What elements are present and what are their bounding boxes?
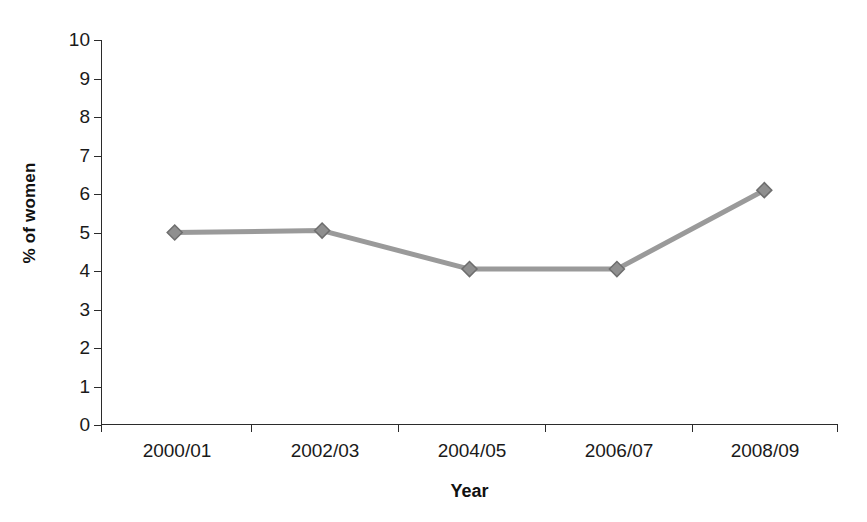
x-tick-label: 2008/09 [731,440,800,462]
plot-area [101,40,838,425]
x-axis-tick [398,425,399,432]
y-axis-tick [94,348,101,349]
series-polyline [175,190,765,269]
y-axis-tick [94,271,101,272]
y-tick-label: 4 [79,260,90,282]
data-point-marker [315,223,330,238]
y-tick-label: 9 [79,68,90,90]
y-axis-tick [94,425,101,426]
data-point-marker [462,262,477,277]
y-axis-tick-labels: 10 9 8 7 6 5 4 3 2 1 0 [46,0,90,522]
y-tick-label: 7 [79,145,90,167]
y-tick-label: 0 [79,414,90,436]
y-axis-title-label: % of women [20,162,40,263]
x-tick-label: 2002/03 [291,440,360,462]
chart-page: % of women 10 9 8 7 6 5 4 3 2 1 0 [0,0,867,522]
y-tick-label: 2 [79,337,90,359]
x-tick-label: 2004/05 [438,440,507,462]
y-tick-label: 8 [79,106,90,128]
x-axis-title: Year [101,481,838,502]
y-axis-tick [94,387,101,388]
x-axis-tick [251,425,252,432]
x-axis-tick-labels: 2000/01 2002/03 2004/05 2006/07 2008/09 [101,440,838,468]
y-axis-tick [94,233,101,234]
y-axis-tick [94,156,101,157]
y-axis-tick [94,117,101,118]
x-axis-tick [545,425,546,432]
y-axis-tick [94,194,101,195]
x-axis-tick [692,425,693,432]
y-tick-label: 3 [79,299,90,321]
y-tick-label: 6 [79,183,90,205]
x-tick-label: 2006/07 [585,440,654,462]
x-axis-tick [837,425,838,432]
y-axis-tick [94,79,101,80]
y-axis-title: % of women [10,0,50,425]
y-tick-label: 5 [79,222,90,244]
y-tick-label: 10 [69,29,90,51]
x-tick-label: 2000/01 [143,440,212,462]
data-series-line [101,40,838,426]
y-tick-label: 1 [79,376,90,398]
y-axis-tick [94,310,101,311]
data-point-marker [167,225,182,240]
y-axis-tick [94,40,101,41]
